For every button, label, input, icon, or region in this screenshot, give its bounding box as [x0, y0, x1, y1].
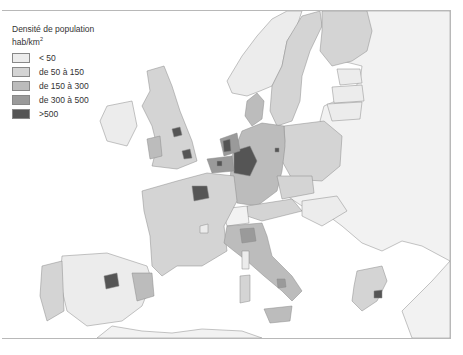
latvia [332, 85, 364, 103]
france [142, 173, 237, 276]
legend-row: >500 [12, 107, 94, 121]
legend-row: de 50 à 150 [12, 65, 94, 79]
italy [224, 223, 302, 301]
wales [147, 136, 162, 159]
portugal [40, 261, 64, 321]
estonia [337, 69, 362, 85]
legend-row: de 300 à 500 [12, 93, 94, 107]
corsica [242, 251, 249, 269]
legend-label: de 50 à 150 [39, 67, 84, 77]
north-africa [97, 326, 262, 338]
lombardy [240, 228, 256, 243]
ireland [100, 101, 137, 146]
poland [282, 121, 342, 181]
athens [374, 290, 382, 298]
london [182, 149, 192, 159]
legend-swatch [12, 109, 30, 119]
legend-unit: hab/km2 [12, 34, 94, 47]
legend-title: Densité de population [12, 24, 94, 34]
ile-de-france [192, 186, 209, 201]
madrid [104, 273, 119, 289]
legend-swatch [12, 53, 30, 63]
legend-label: de 150 à 300 [39, 81, 89, 91]
legend-row: de 150 à 300 [12, 79, 94, 93]
naples [277, 279, 286, 288]
map-frame: Densité de population hab/km2 < 50 de 50… [2, 10, 451, 339]
brussels [217, 161, 222, 166]
midlands [172, 127, 182, 137]
lithuania [327, 102, 362, 121]
legend-label: >500 [39, 109, 58, 119]
denmark [245, 93, 264, 126]
legend-label: de 300 à 500 [39, 95, 89, 105]
berlin [275, 148, 279, 152]
greece [352, 266, 387, 311]
randstad [223, 139, 231, 152]
legend-label: < 50 [39, 53, 56, 63]
legend-swatch [12, 81, 30, 91]
legend-row: < 50 [12, 51, 94, 65]
legend-swatch [12, 95, 30, 105]
legend: Densité de population hab/km2 < 50 de 50… [12, 24, 94, 121]
legend-swatch [12, 67, 30, 77]
sicily [264, 306, 292, 323]
sardinia [240, 275, 250, 303]
